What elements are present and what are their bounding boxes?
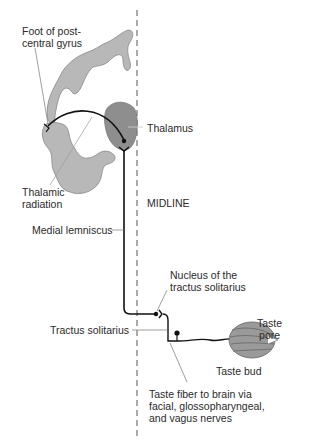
leader-taste-fiber	[170, 343, 187, 382]
label-thalamic-radiation: Thalamic radiation	[22, 186, 65, 210]
leader-nucleus	[157, 290, 167, 311]
thalamus-neuron-icon	[122, 139, 126, 143]
label-nucleus-tractus-solitarius: Nucleus of the tractus solitarius	[170, 269, 246, 293]
label-foot-of-postcentral-gyrus: Foot of post- central gyrus	[22, 25, 82, 49]
label-thalamus: Thalamus	[147, 122, 193, 134]
thalamus	[105, 102, 138, 150]
label-midline: MIDLINE	[147, 197, 190, 209]
medial-lemniscus-path	[124, 151, 156, 314]
cerebral-cortex-lower	[42, 123, 115, 194]
tractus-solitarius-path	[163, 314, 232, 341]
label-tractus-solitarius: Tractus solitarius	[50, 324, 129, 336]
label-taste-pore: Taste pore	[257, 317, 282, 341]
label-medial-lemniscus: Medial lemniscus	[32, 224, 113, 236]
label-taste-bud: Taste bud	[216, 365, 262, 377]
leader-foot-gyrus	[35, 48, 48, 124]
label-taste-fiber: Taste fiber to brain via facial, glossop…	[149, 388, 265, 424]
nucleus-synapse-icon	[159, 310, 162, 318]
nucleus-neuron-icon	[154, 312, 158, 316]
